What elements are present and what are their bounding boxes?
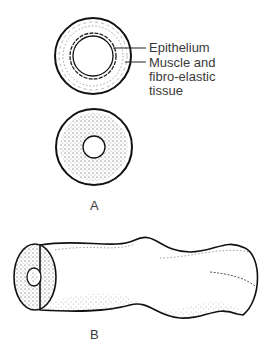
panel-label-b: B xyxy=(90,328,99,342)
cross-section-open xyxy=(55,18,131,94)
label-muscle-line2: fibro-elastic xyxy=(149,70,215,84)
panel-label-a: A xyxy=(90,199,99,213)
label-muscle-line3: tissue xyxy=(149,84,183,98)
label-muscle-line1: Muscle and xyxy=(149,56,215,70)
diagram-canvas xyxy=(0,0,275,356)
cross-section-closed xyxy=(56,109,132,185)
tube-illustration xyxy=(14,237,258,318)
label-epithelium: Epithelium xyxy=(149,41,210,55)
